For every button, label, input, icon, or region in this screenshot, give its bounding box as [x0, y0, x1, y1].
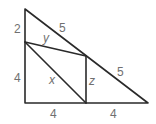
triangle-diagram: 2 4 5 5 4 4 x y z: [0, 0, 156, 124]
label-bottom-left: 4: [50, 107, 57, 121]
label-y: y: [42, 31, 50, 45]
label-hyp-bottom: 5: [117, 65, 124, 79]
label-left-top: 2: [14, 22, 21, 36]
label-x: x: [48, 73, 56, 87]
label-bottom-right: 4: [110, 107, 117, 121]
label-z: z: [88, 74, 95, 88]
segment-x: [25, 42, 86, 103]
label-hyp-top: 5: [59, 21, 66, 35]
label-left-bottom: 4: [14, 71, 21, 85]
